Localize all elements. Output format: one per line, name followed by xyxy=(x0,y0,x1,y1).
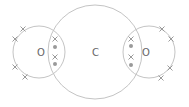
atom-label-carbon: C xyxy=(92,47,99,58)
cross-electron-icon xyxy=(53,55,58,60)
cross-electron-icon xyxy=(168,66,173,71)
cross-electron-icon xyxy=(129,55,134,60)
atom-label-oxygen-left: O xyxy=(37,47,45,58)
cross-electron-icon xyxy=(23,75,28,80)
dot-electron-icon xyxy=(129,63,133,67)
dot-electron-icon xyxy=(53,45,57,49)
co2-dot-cross-diagram: O C O xyxy=(0,0,189,107)
cross-electron-icon xyxy=(129,37,134,42)
cross-electron-icon xyxy=(53,37,58,42)
dot-electron-icon xyxy=(129,44,133,48)
cross-electron-icon xyxy=(21,27,26,32)
dot-electron-icon xyxy=(53,62,57,66)
atom-label-oxygen-right: O xyxy=(142,47,150,58)
cross-electron-icon xyxy=(13,65,18,70)
cross-electron-icon xyxy=(159,76,164,81)
